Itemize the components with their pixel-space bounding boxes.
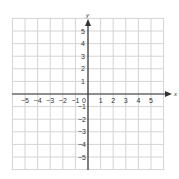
y-axis-label: y	[85, 12, 90, 18]
x-tick-label: −5	[21, 97, 29, 104]
x-tick-label: 3	[124, 97, 128, 104]
y-tick-label: 3	[81, 53, 85, 60]
y-tick-label: −2	[78, 116, 86, 123]
coordinate-plane: x y −5−4−3−2−1012345 12345−1−2−3−4−5	[0, 0, 179, 179]
y-tick-label: −1	[78, 103, 86, 110]
y-tick-label: −3	[78, 128, 86, 135]
x-tick-label: 1	[99, 97, 103, 104]
y-tick-label: 2	[81, 65, 85, 72]
y-tick-label: 4	[81, 40, 85, 47]
x-axis-arrow-icon	[165, 91, 172, 97]
y-tick-label: −4	[78, 141, 86, 148]
y-tick-label: 1	[81, 78, 85, 85]
y-tick-label: 5	[81, 28, 85, 35]
x-tick-labels: −5−4−3−2−1012345	[21, 97, 153, 104]
x-tick-label: 5	[149, 97, 153, 104]
x-axis-label: x	[173, 91, 178, 97]
x-tick-label: −2	[59, 97, 67, 104]
x-tick-label: 4	[136, 97, 140, 104]
y-tick-label: −5	[78, 154, 86, 161]
x-tick-label: −4	[34, 97, 42, 104]
y-axis-arrow-icon	[85, 19, 91, 26]
x-tick-label: −3	[46, 97, 54, 104]
x-tick-label: 2	[111, 97, 115, 104]
